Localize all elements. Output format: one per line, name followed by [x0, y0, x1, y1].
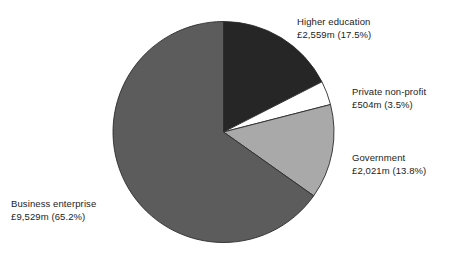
pie-chart-canvas: [0, 0, 459, 266]
pie-chart: Higher education £2,559m (17.5%) Private…: [0, 0, 459, 266]
pie-label-higher-education-name: Higher education: [297, 16, 371, 29]
pie-label-higher-education-value: £2,559m (17.5%): [297, 29, 371, 42]
pie-label-private-non-profit-name: Private non-profit: [352, 86, 426, 99]
pie-label-government-value: £2,021m (13.8%): [352, 165, 426, 178]
pie-slices: [113, 22, 334, 243]
pie-label-government-name: Government: [352, 152, 426, 165]
pie-label-private-non-profit: Private non-profit £504m (3.5%): [352, 86, 426, 111]
pie-label-business-enterprise: Business enterprise £9,529m (65.2%): [11, 198, 96, 223]
pie-label-higher-education: Higher education £2,559m (17.5%): [297, 16, 371, 41]
pie-label-private-non-profit-value: £504m (3.5%): [352, 99, 426, 112]
pie-label-business-enterprise-name: Business enterprise: [11, 198, 96, 211]
pie-label-business-enterprise-value: £9,529m (65.2%): [11, 211, 96, 224]
pie-label-government: Government £2,021m (13.8%): [352, 152, 426, 177]
